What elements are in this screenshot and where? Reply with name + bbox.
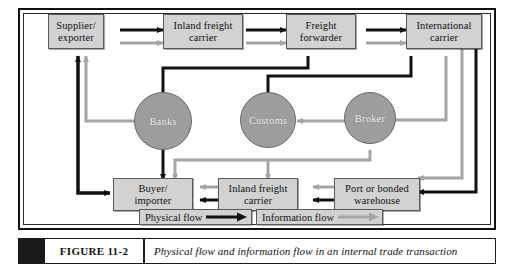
node-inland-in-line2: carrier [227,195,290,207]
node-buyer-importer-line2: importer [133,195,174,207]
node-broker-label: Broker [355,113,385,124]
node-freight-forwarder[interactable]: Freight forwarder [286,14,356,49]
node-customs[interactable]: Customs [240,92,296,148]
node-inland-out-line1: Inland freight [172,20,235,32]
node-inland-in-line1: Inland freight [227,183,290,195]
legend-physical-flow-label: Physical flow [145,212,202,223]
figure-container: Supplier/ exporter Inland freight carrie… [0,0,514,272]
node-inland-freight-carrier-outbound[interactable]: Inland freight carrier [163,14,243,49]
node-supplier-exporter-line2: exporter [54,32,97,44]
node-banks-label: Banks [149,116,176,127]
node-international-carrier-line1: International [415,20,474,32]
node-supplier-exporter-line1: Supplier/ [54,20,97,32]
node-buyer-importer-line1: Buyer/ [133,183,174,195]
node-port-line2: warehouse [343,195,411,207]
legend-physical-flow: Physical flow [139,209,252,225]
node-supplier-exporter[interactable]: Supplier/ exporter [48,14,104,49]
legend-information-flow: Information flow [256,209,383,225]
figure-caption-bar: FIGURE 11-2 Physical flow and informatio… [18,238,496,264]
node-freight-forwarder-line1: Freight [298,20,344,32]
node-inland-freight-carrier-inbound[interactable]: Inland freight carrier [218,178,298,211]
node-international-carrier-line2: carrier [415,32,474,44]
node-international-carrier[interactable]: International carrier [406,14,482,49]
legend-information-flow-label: Information flow [262,212,334,223]
caption-swatch [19,239,45,263]
physical-flow-arrow-icon [206,212,248,222]
node-port-or-bonded-warehouse[interactable]: Port or bonded warehouse [334,178,420,211]
node-broker[interactable]: Broker [344,92,396,144]
node-customs-label: Customs [249,115,287,126]
figure-number: FIGURE 11-2 [45,239,145,263]
figure-caption-text: Physical flow and information flow in an… [145,239,495,263]
node-freight-forwarder-line2: forwarder [298,32,344,44]
node-inland-out-line2: carrier [172,32,235,44]
node-banks[interactable]: Banks [134,92,192,150]
node-port-line1: Port or bonded [343,183,411,195]
node-buyer-importer[interactable]: Buyer/ importer [113,178,193,211]
information-flow-arrow-icon [338,212,380,222]
